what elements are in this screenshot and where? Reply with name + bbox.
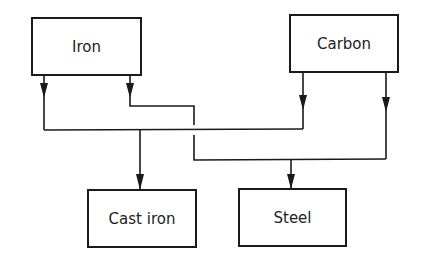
arrow-down-icon [287,174,295,189]
steel-node: Steel [238,188,347,247]
cast-iron-label: Cast iron [109,210,176,228]
iron-right-line-lower [194,135,386,160]
materials-flow-diagram: Iron Carbon Cast iron Steel [0,0,424,267]
arrow-down-icon [40,83,48,98]
cast-iron-node: Cast iron [87,189,197,248]
arrow-down-icon [382,97,390,112]
arrow-down-icon [299,95,307,110]
cast-iron-bus-line [44,129,303,130]
iron-right-line-upper [130,75,194,125]
carbon-node: Carbon [289,14,399,73]
arrow-down-icon [136,174,144,190]
carbon-label: Carbon [317,35,371,53]
iron-label: Iron [72,38,101,56]
steel-label: Steel [273,209,311,227]
iron-node: Iron [31,17,142,76]
arrow-down-icon [126,83,134,98]
